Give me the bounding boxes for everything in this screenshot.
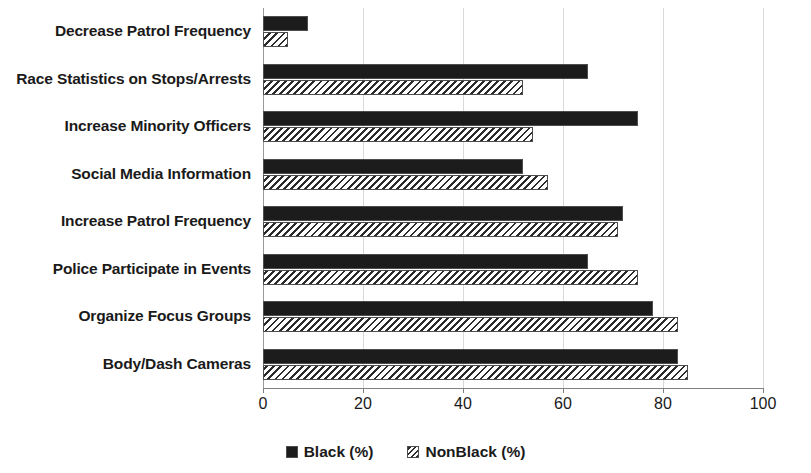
bar-nonblack[interactable] xyxy=(263,365,688,380)
bar-black[interactable] xyxy=(263,111,638,126)
bar-nonblack[interactable] xyxy=(263,127,533,142)
bar-black[interactable] xyxy=(263,159,523,174)
bar-nonblack[interactable] xyxy=(263,222,618,237)
category-label: Organize Focus Groups xyxy=(0,307,251,325)
x-tick-mark xyxy=(363,388,364,393)
bar-nonblack[interactable] xyxy=(263,80,523,95)
category-label: Increase Patrol Frequency xyxy=(0,212,251,230)
hatched-square-icon xyxy=(407,446,419,458)
bar-nonblack[interactable] xyxy=(263,32,288,47)
bar-black[interactable] xyxy=(263,16,308,31)
category-label: Decrease Patrol Frequency xyxy=(0,22,251,40)
solid-black-square-icon xyxy=(286,446,298,458)
bar-black[interactable] xyxy=(263,349,678,364)
x-tick-mark xyxy=(563,388,564,393)
category-label: Race Statistics on Stops/Arrests xyxy=(0,70,251,88)
category-label: Increase Minority Officers xyxy=(0,117,251,135)
x-tick-mark xyxy=(263,388,264,393)
x-tick-mark xyxy=(763,388,764,393)
chart-legend: Black (%) NonBlack (%) xyxy=(0,444,811,460)
legend-label-black: Black (%) xyxy=(304,444,374,460)
x-tick-label: 0 xyxy=(233,395,293,413)
category-label: Police Participate in Events xyxy=(0,260,251,278)
category-label: Social Media Information xyxy=(0,165,251,183)
x-tick-mark xyxy=(463,388,464,393)
x-tick-label: 40 xyxy=(433,395,493,413)
legend-label-nonblack: NonBlack (%) xyxy=(425,444,525,460)
x-tick-label: 20 xyxy=(333,395,393,413)
bar-nonblack[interactable] xyxy=(263,270,638,285)
bar-black[interactable] xyxy=(263,206,623,221)
x-tick-label: 60 xyxy=(533,395,593,413)
gridline-100 xyxy=(763,8,764,388)
bar-black[interactable] xyxy=(263,64,588,79)
legend-item-nonblack[interactable]: NonBlack (%) xyxy=(407,444,525,460)
x-tick-mark xyxy=(663,388,664,393)
bar-nonblack[interactable] xyxy=(263,175,548,190)
category-label: Body/Dash Cameras xyxy=(0,355,251,373)
bar-nonblack[interactable] xyxy=(263,317,678,332)
x-tick-label: 100 xyxy=(733,395,793,413)
legend-item-black[interactable]: Black (%) xyxy=(286,444,374,460)
x-tick-label: 80 xyxy=(633,395,693,413)
bar-black[interactable] xyxy=(263,254,588,269)
x-axis-line xyxy=(263,388,763,389)
bar-black[interactable] xyxy=(263,301,653,316)
bar-chart: Decrease Patrol FrequencyRace Statistics… xyxy=(0,0,811,473)
